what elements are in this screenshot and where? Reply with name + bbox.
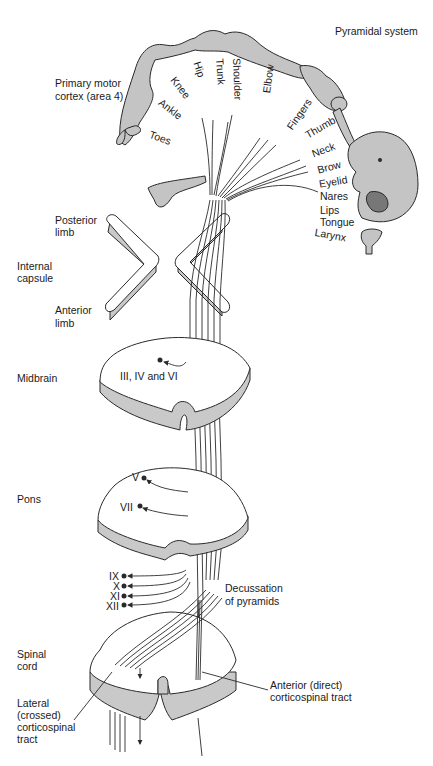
decussation-label-2: of pyramids — [225, 595, 279, 607]
spinal-cord-label: Spinal — [17, 648, 46, 660]
anterior-tract-label-2: corticospinal tract — [270, 691, 352, 703]
midbrain-label: Midbrain — [17, 372, 57, 384]
lateral-tract-label-2: (crossed) — [17, 709, 61, 721]
homunculus-label-nares: Nares — [320, 190, 348, 202]
homunculus-label-tongue: Tongue — [320, 216, 354, 228]
lateral-tract-label-4: tract — [17, 733, 37, 745]
posterior-limb-label-2: limb — [55, 226, 74, 238]
lateral-tract-label-3: corticospinal — [17, 721, 75, 733]
spinal-cord-slab — [90, 612, 236, 720]
homunculus-label-lips: Lips — [320, 204, 339, 216]
homunculus-label-trunk: Trunk — [214, 58, 228, 85]
homunculus-label-shoulder: Shoulder — [231, 58, 244, 100]
primary-motor-cortex-label-2: cortex (area 4) — [55, 90, 123, 102]
diagram-artwork — [0, 0, 433, 766]
corticospinal-fibers-fan — [202, 115, 318, 201]
anterior-limb-label: Anterior — [55, 304, 92, 316]
primary-motor-cortex-label: Primary motor — [55, 77, 121, 89]
pyramidal-system-diagram: Pyramidal system Primary motor cortex (a… — [0, 0, 433, 766]
internal-capsule-label: Internal — [17, 260, 52, 272]
internal-capsule-label-2: capsule — [17, 272, 53, 284]
anterior-tract-label: Anterior (direct) — [270, 679, 342, 691]
diagram-title: Pyramidal system — [335, 25, 418, 37]
midbrain-nuclei-label: III, IV and VI — [120, 370, 178, 382]
pons-nucleus-vii: VII — [120, 501, 133, 513]
decussation-label: Decussation — [225, 582, 283, 594]
anterior-limb-label-2: limb — [55, 317, 74, 329]
pons-label: Pons — [17, 493, 41, 505]
medulla-cranial-nuclei — [128, 570, 190, 605]
nucleus-xii: XII — [106, 600, 119, 612]
spinal-cord-label-2: cord — [17, 660, 37, 672]
pons-nucleus-v: V — [132, 471, 139, 483]
lateral-tract-label: Lateral — [17, 697, 49, 709]
posterior-limb-label: Posterior — [55, 214, 97, 226]
pons-slab — [98, 468, 248, 560]
midbrain-slab — [100, 337, 250, 430]
